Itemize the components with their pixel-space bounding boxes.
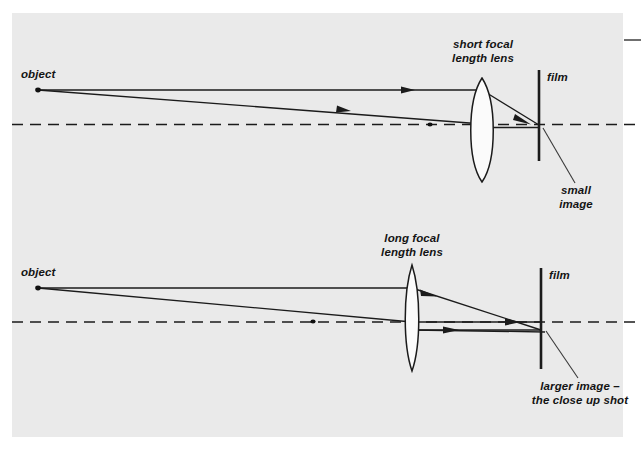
figure-container: object short focal length lens film smal… — [0, 0, 641, 451]
focal-point-dot-bottom — [310, 319, 315, 323]
image-label-top-line2: image — [559, 198, 593, 210]
film-label-top: film — [547, 71, 568, 83]
lens-label-bottom-line2: length lens — [381, 246, 443, 258]
film-label-bottom: film — [549, 269, 570, 281]
object-point-top — [35, 88, 41, 93]
lens-label-top-line2: length lens — [452, 52, 514, 64]
lens-label-bottom-line1: long focal — [384, 232, 440, 244]
image-label-bottom-line1: larger image – — [540, 380, 620, 392]
object-point-bottom — [35, 286, 41, 291]
image-label-bottom-line2: the close up shot — [532, 394, 629, 406]
lens-label-top-line1: short focal — [453, 38, 514, 50]
optics-diagram: object short focal length lens film smal… — [0, 0, 641, 451]
focal-point-dot-top — [427, 122, 432, 126]
object-label-top: object — [21, 68, 57, 80]
object-label-bottom: object — [21, 266, 57, 278]
image-label-top-line1: small — [561, 184, 592, 196]
figure-panel-texture — [12, 13, 623, 437]
